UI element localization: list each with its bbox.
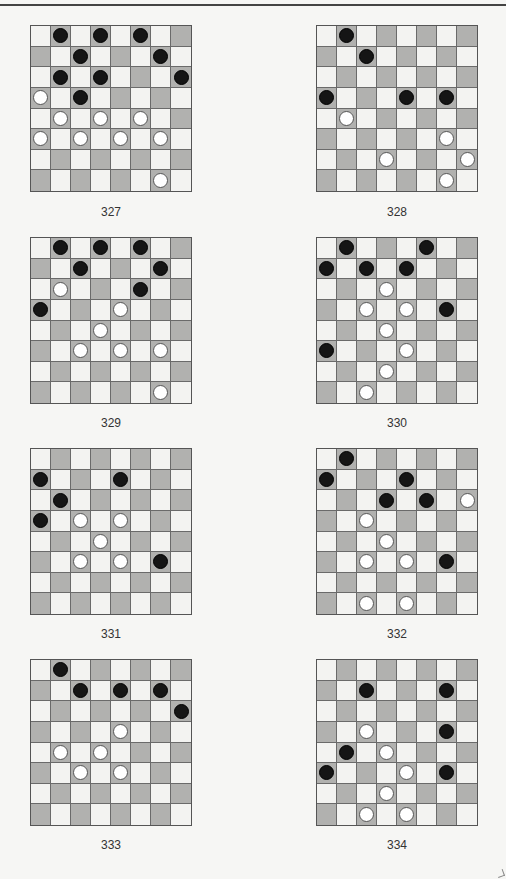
white-piece-icon bbox=[113, 302, 128, 317]
board-square bbox=[337, 804, 357, 825]
board-square bbox=[151, 362, 171, 383]
board-square bbox=[417, 532, 437, 553]
board-square bbox=[151, 701, 171, 722]
black-piece-icon bbox=[439, 554, 454, 569]
board-square bbox=[457, 470, 477, 491]
board-square bbox=[437, 593, 457, 614]
black-piece-icon bbox=[319, 765, 334, 780]
board-square bbox=[437, 449, 457, 470]
board-square bbox=[377, 238, 397, 259]
board-square bbox=[357, 362, 377, 383]
black-piece-icon bbox=[53, 493, 68, 508]
board-square bbox=[357, 26, 377, 47]
board-square bbox=[171, 321, 191, 342]
white-piece-icon bbox=[53, 282, 68, 297]
board-square bbox=[151, 382, 171, 403]
board-square bbox=[437, 170, 457, 191]
white-piece-icon bbox=[93, 534, 108, 549]
board-square bbox=[457, 681, 477, 702]
board-square bbox=[397, 743, 417, 764]
board-square bbox=[397, 660, 417, 681]
white-piece-icon bbox=[73, 131, 88, 146]
board-square bbox=[111, 490, 131, 511]
board-square bbox=[151, 743, 171, 764]
black-piece-icon bbox=[53, 240, 68, 255]
board-square bbox=[437, 321, 457, 342]
white-piece-icon bbox=[379, 786, 394, 801]
board-square bbox=[437, 722, 457, 743]
board-square bbox=[417, 129, 437, 150]
board-square bbox=[357, 449, 377, 470]
black-piece-icon bbox=[399, 90, 414, 105]
board-square bbox=[51, 129, 71, 150]
board-square bbox=[51, 341, 71, 362]
diagram-number: 329 bbox=[30, 416, 192, 430]
board-square bbox=[131, 67, 151, 88]
board-square bbox=[171, 763, 191, 784]
white-piece-icon bbox=[460, 152, 475, 167]
board-square bbox=[397, 701, 417, 722]
board-square bbox=[111, 259, 131, 280]
board-square bbox=[377, 660, 397, 681]
board-square bbox=[317, 552, 337, 573]
board-square bbox=[151, 573, 171, 594]
board-square bbox=[111, 109, 131, 130]
board-square bbox=[31, 804, 51, 825]
board-square bbox=[151, 150, 171, 171]
board-square bbox=[377, 573, 397, 594]
board-square bbox=[131, 47, 151, 68]
page-corner-mark bbox=[496, 869, 505, 878]
board-square bbox=[31, 279, 51, 300]
white-piece-icon bbox=[359, 807, 374, 822]
board-square bbox=[317, 129, 337, 150]
white-piece-icon bbox=[379, 745, 394, 760]
black-piece-icon bbox=[93, 28, 108, 43]
board-square bbox=[357, 88, 377, 109]
board-square bbox=[151, 490, 171, 511]
board-square bbox=[71, 341, 91, 362]
board-square bbox=[457, 170, 477, 191]
board-square bbox=[417, 170, 437, 191]
board-square bbox=[131, 573, 151, 594]
board-square bbox=[71, 321, 91, 342]
checkers-board-329 bbox=[30, 237, 192, 404]
white-piece-icon bbox=[359, 385, 374, 400]
board-square bbox=[357, 593, 377, 614]
board-square bbox=[417, 26, 437, 47]
black-piece-icon bbox=[53, 662, 68, 677]
board-square bbox=[111, 170, 131, 191]
board-square bbox=[437, 743, 457, 764]
board-square bbox=[111, 804, 131, 825]
board-square bbox=[111, 238, 131, 259]
board-square bbox=[397, 47, 417, 68]
board-square bbox=[457, 109, 477, 130]
board-square bbox=[397, 552, 417, 573]
board-square bbox=[171, 88, 191, 109]
board-square bbox=[457, 593, 477, 614]
board-square bbox=[131, 150, 151, 171]
board-square bbox=[171, 109, 191, 130]
board-square bbox=[171, 67, 191, 88]
board-square bbox=[377, 109, 397, 130]
board-square bbox=[457, 150, 477, 171]
white-piece-icon bbox=[359, 596, 374, 611]
board-square bbox=[31, 362, 51, 383]
board-square bbox=[131, 170, 151, 191]
board-square bbox=[397, 784, 417, 805]
board-square bbox=[111, 26, 131, 47]
board-square bbox=[51, 279, 71, 300]
board-square bbox=[91, 150, 111, 171]
checkers-board-333 bbox=[30, 659, 192, 826]
white-piece-icon bbox=[399, 596, 414, 611]
board-square bbox=[171, 259, 191, 280]
board-square bbox=[71, 681, 91, 702]
board-square bbox=[337, 470, 357, 491]
board-square bbox=[91, 238, 111, 259]
white-piece-icon bbox=[73, 765, 88, 780]
board-square bbox=[171, 362, 191, 383]
board-square bbox=[171, 593, 191, 614]
board-square bbox=[437, 67, 457, 88]
board-square bbox=[377, 743, 397, 764]
board-square bbox=[171, 449, 191, 470]
board-square bbox=[317, 701, 337, 722]
